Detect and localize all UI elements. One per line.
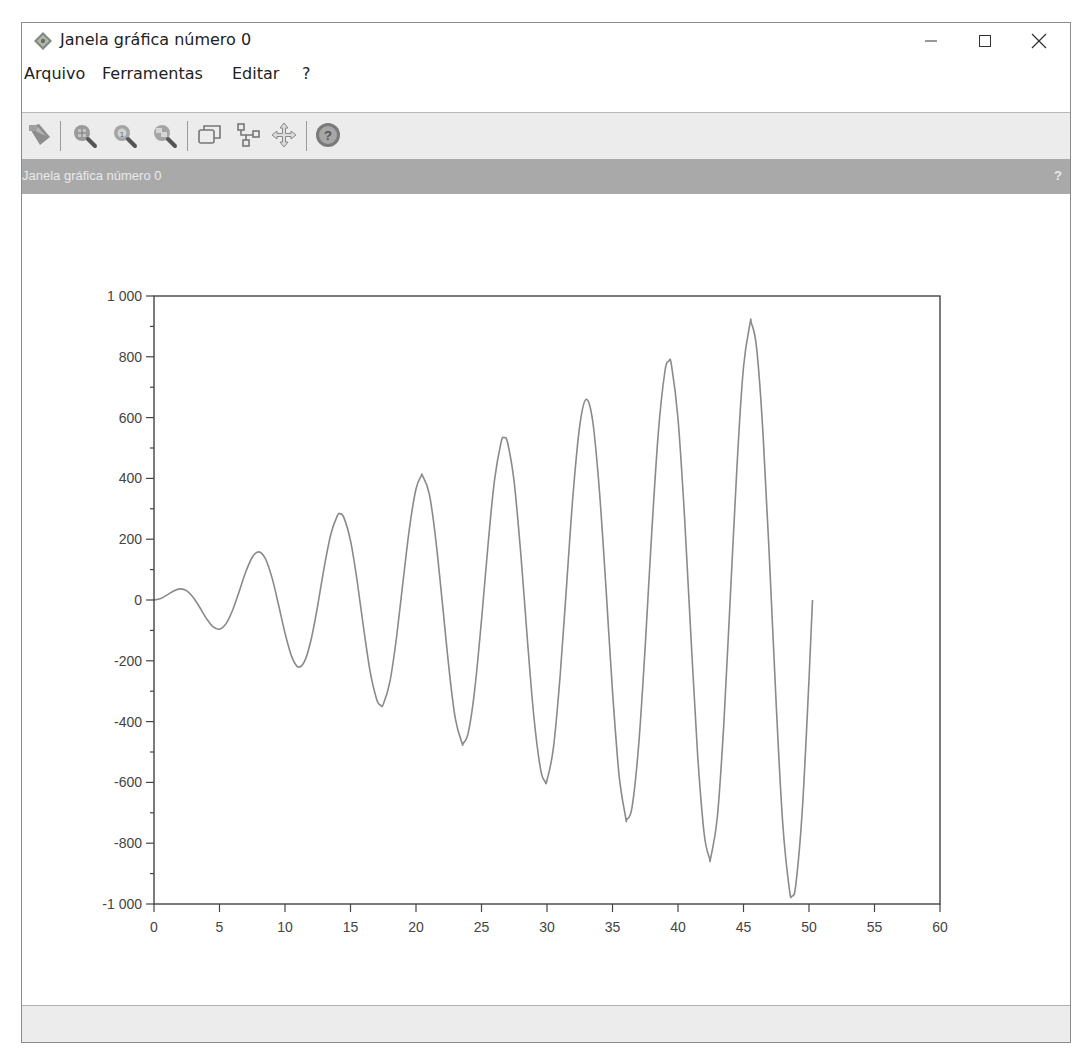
x-axis: 051015202530354045505560	[150, 904, 948, 935]
y-tick-label: -800	[114, 835, 142, 851]
x-tick-label: 0	[150, 919, 158, 935]
x-tick-label: 35	[605, 919, 621, 935]
plot-canvas[interactable]: 1 0008006004002000-200-400-600-800-1 000…	[22, 194, 1070, 1008]
x-tick-label: 5	[216, 919, 224, 935]
x-tick-label: 15	[343, 919, 359, 935]
y-tick-label: -600	[114, 774, 142, 790]
x-tick-label: 60	[932, 919, 948, 935]
x-tick-label: 50	[801, 919, 817, 935]
y-axis: 1 0008006004002000-200-400-600-800-1 000	[102, 288, 154, 912]
axes-frame	[154, 296, 940, 904]
line-chart: 1 0008006004002000-200-400-600-800-1 000…	[1, 1, 1090, 1056]
data-series-line	[154, 319, 813, 898]
x-tick-label: 30	[539, 919, 555, 935]
y-tick-label: 0	[134, 592, 142, 608]
x-tick-label: 40	[670, 919, 686, 935]
x-tick-label: 45	[736, 919, 752, 935]
x-tick-label: 10	[277, 919, 293, 935]
y-tick-label: 200	[119, 531, 143, 547]
y-tick-label: 800	[119, 349, 143, 365]
x-tick-label: 55	[867, 919, 883, 935]
graphic-window: Janela gráfica número 0 Arquivo Ferramen…	[21, 22, 1071, 1043]
status-bar	[22, 1005, 1070, 1042]
y-tick-label: -200	[114, 653, 142, 669]
y-tick-label: -400	[114, 714, 142, 730]
x-tick-label: 25	[474, 919, 490, 935]
curve-layer	[154, 319, 813, 898]
y-tick-label: 400	[119, 470, 143, 486]
y-tick-label: 1 000	[107, 288, 142, 304]
x-tick-label: 20	[408, 919, 424, 935]
y-tick-label: -1 000	[102, 896, 142, 912]
y-tick-label: 600	[119, 410, 143, 426]
